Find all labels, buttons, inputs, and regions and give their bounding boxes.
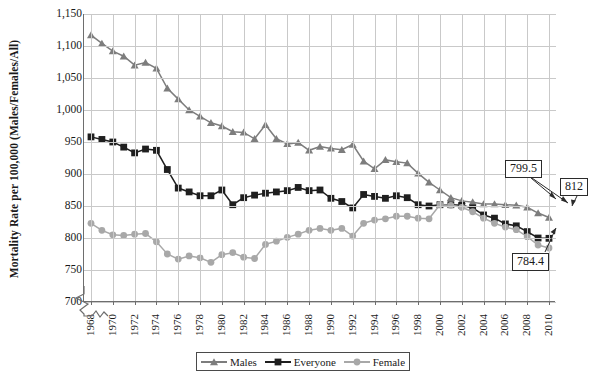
x-tick-label-text: 1994	[368, 314, 380, 336]
x-tick-label-text: 2008	[520, 314, 532, 336]
vertical-gridline	[244, 14, 245, 302]
data-point-marker	[120, 52, 128, 59]
horizontal-gridline	[84, 270, 556, 271]
legend-item-everyone[interactable]: Everyone	[265, 356, 336, 368]
data-point-marker	[404, 194, 411, 201]
y-tick-label: 950	[36, 136, 82, 148]
y-tick-label: 850	[36, 200, 82, 212]
data-point-marker	[207, 119, 215, 126]
x-tick-label: 1982	[237, 304, 249, 348]
data-point-marker	[274, 358, 281, 365]
y-tick-label: 750	[36, 264, 82, 276]
horizontal-gridline	[84, 142, 556, 143]
data-point-marker	[186, 253, 193, 260]
data-point-marker	[208, 259, 215, 266]
vertical-gridline	[200, 14, 201, 302]
data-point-marker	[360, 191, 367, 198]
x-tick-label: 1986	[280, 304, 292, 348]
legend-marker-square-icon	[265, 357, 291, 367]
x-tick-label: 1976	[171, 304, 183, 348]
vertical-gridline	[287, 14, 288, 302]
data-point-marker	[251, 255, 258, 262]
x-tick-label-text: 1972	[128, 314, 140, 336]
data-point-marker	[120, 144, 127, 151]
data-point-marker	[513, 226, 520, 233]
data-point-marker	[163, 84, 171, 91]
x-tick-label-text: 1974	[149, 314, 161, 336]
vertical-gridline	[484, 14, 485, 302]
data-point-marker	[353, 358, 360, 365]
x-tick-label-text: 1980	[215, 314, 227, 336]
legend-marker-triangle-icon	[201, 357, 227, 367]
x-tick-label-text: 2006	[498, 314, 510, 336]
y-axis-tick-labels: 1,1501,1001,0501,000950900850800750700	[28, 0, 82, 318]
vertical-gridline	[309, 14, 310, 302]
y-tick-label: 900	[36, 168, 82, 180]
vertical-gridline	[331, 14, 332, 302]
legend-item-female[interactable]: Female	[344, 356, 405, 368]
annotation-812: 812	[560, 178, 588, 196]
data-point-marker	[491, 220, 498, 227]
data-point-marker	[164, 251, 171, 258]
horizontal-gridline	[84, 206, 556, 207]
legend-marker-circle-icon	[344, 357, 370, 367]
horizontal-gridline	[84, 110, 556, 111]
data-point-marker	[229, 201, 236, 208]
x-tick-label: 1992	[346, 304, 358, 348]
x-tick-label: 1988	[302, 304, 314, 348]
data-point-marker	[186, 189, 193, 196]
x-tick-label-text: 1988	[302, 314, 314, 336]
y-axis-break-icon	[70, 286, 110, 320]
x-tick-label: 1974	[149, 304, 161, 348]
horizontal-gridline	[84, 14, 556, 15]
vertical-gridline	[178, 14, 179, 302]
chart-legend: MalesEveryoneFemale	[196, 352, 410, 371]
x-tick-label-text: 1990	[324, 314, 336, 336]
data-point-marker	[142, 146, 149, 153]
x-tick-label: 2008	[520, 304, 532, 348]
data-point-marker	[317, 225, 324, 232]
data-point-marker	[360, 157, 368, 164]
x-tick-label: 1984	[258, 304, 270, 348]
vertical-gridline	[91, 14, 92, 302]
vertical-gridline	[375, 14, 376, 302]
legend-label: Female	[373, 356, 405, 368]
data-point-marker	[208, 192, 215, 199]
data-point-marker	[295, 231, 302, 238]
y-axis-title: Mortality Rate per 100,000 (Males/Female…	[2, 0, 26, 318]
horizontal-gridline	[84, 238, 556, 239]
data-point-marker	[338, 198, 345, 205]
plot-area	[83, 14, 555, 302]
y-tick-label: 1,100	[36, 40, 82, 52]
x-tick-label: 1996	[389, 304, 401, 348]
data-point-marker	[99, 227, 106, 234]
data-point-marker	[360, 220, 367, 227]
horizontal-gridline	[84, 302, 556, 303]
x-tick-label: 1998	[411, 304, 423, 348]
data-point-marker	[164, 166, 171, 173]
data-point-marker	[273, 189, 280, 196]
data-point-marker	[316, 143, 324, 150]
data-point-marker	[142, 230, 149, 237]
vertical-gridline	[418, 14, 419, 302]
horizontal-gridline	[84, 78, 556, 79]
x-tick-label: 1994	[368, 304, 380, 348]
x-tick-label: 1978	[193, 304, 205, 348]
y-axis-title-text: Mortality Rate per 100,000 (Males/Female…	[8, 40, 20, 278]
x-tick-label: 2002	[455, 304, 467, 348]
vertical-gridline	[549, 14, 550, 302]
legend-item-males[interactable]: Males	[201, 356, 257, 368]
vertical-gridline	[462, 14, 463, 302]
data-point-marker	[535, 242, 542, 249]
data-point-marker	[251, 192, 258, 199]
vertical-gridline	[222, 14, 223, 302]
x-tick-label-text: 2000	[433, 314, 445, 336]
series-lines	[84, 14, 556, 302]
legend-label: Males	[230, 356, 257, 368]
data-point-marker	[381, 156, 389, 163]
vertical-gridline	[156, 14, 157, 302]
data-point-marker	[295, 184, 302, 191]
annotation-799-5: 799.5	[505, 160, 542, 178]
data-point-marker	[382, 195, 389, 202]
vertical-gridline	[265, 14, 266, 302]
